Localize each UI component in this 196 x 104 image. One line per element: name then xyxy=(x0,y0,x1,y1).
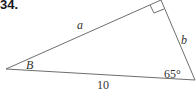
right-triangle-diagram: 34. a b B 10 65° xyxy=(0,0,196,104)
problem-number: 34. xyxy=(0,0,18,12)
hypotenuse-label: 10 xyxy=(97,78,109,92)
angle-b-label: B xyxy=(26,58,34,72)
right-angle-marker xyxy=(150,5,164,13)
angle-65-label: 65° xyxy=(164,67,181,81)
side-b-label: b xyxy=(181,33,187,47)
side-a-label: a xyxy=(77,18,83,32)
